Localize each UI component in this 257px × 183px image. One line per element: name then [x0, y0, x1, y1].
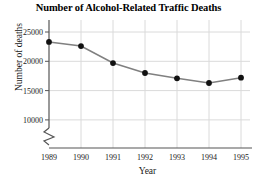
y-tick-label: 10000	[23, 116, 43, 125]
y-tick-label: 15000	[23, 87, 43, 96]
x-axis-tick-labels: 1989 1990 1991 1992 1993 1994 1995	[41, 153, 249, 162]
y-axis-tick-labels: 25000 20000 15000 10000	[23, 28, 43, 125]
data-point	[174, 75, 180, 81]
x-tick-label: 1994	[201, 153, 217, 162]
x-tick-label: 1991	[105, 153, 121, 162]
data-point	[238, 75, 244, 81]
y-axis-label: Number of deaths	[14, 2, 24, 112]
data-point	[78, 43, 84, 49]
y-tick-label: 25000	[23, 28, 43, 37]
x-axis-label: Year	[40, 166, 255, 176]
data-point	[206, 80, 212, 86]
y-axis-break-icon	[44, 128, 54, 145]
line-chart-plot: 25000 20000 15000 10000 1989 1990 1991 1…	[0, 0, 257, 183]
x-tick-label: 1995	[233, 153, 249, 162]
data-point	[46, 39, 52, 45]
x-tick-label: 1990	[73, 153, 89, 162]
x-tick-label: 1989	[41, 153, 57, 162]
chart-container: Number of Alcohol-Related Traffic Deaths	[0, 0, 257, 183]
y-tick-label: 20000	[23, 57, 43, 66]
data-point	[110, 60, 116, 66]
x-tick-label: 1993	[169, 153, 185, 162]
data-point	[142, 70, 148, 76]
vertical-gridlines	[81, 20, 241, 148]
x-tick-label: 1992	[137, 153, 153, 162]
